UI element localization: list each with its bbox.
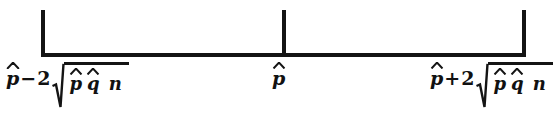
square-root-group: p q (52, 62, 128, 108)
p-glyph: p (69, 75, 82, 93)
plus-operator: + (444, 62, 460, 88)
coefficient-two: 2 (461, 62, 474, 88)
p-hat-symbol: p (493, 68, 506, 93)
fraction-numerator: p q (491, 67, 525, 94)
tick-lower-bound (41, 10, 45, 55)
upper-bound-label: p + 2 (430, 62, 553, 108)
q-hat-symbol: q (87, 68, 100, 93)
lower-bound-label: p − 2 (6, 62, 129, 108)
q-glyph: q (511, 75, 524, 93)
coefficient-two: 2 (37, 62, 50, 88)
p-glyph: p (6, 69, 19, 88)
hat-accent-icon (87, 68, 100, 75)
fraction-numerator: p q (67, 67, 101, 94)
fraction-denominator: n (531, 73, 548, 95)
tick-point-estimate (282, 10, 286, 55)
hat-accent-icon (493, 68, 506, 75)
p-hat-symbol: p (430, 62, 443, 88)
fraction-p-hat-q-hat-over-n: p q (67, 67, 123, 94)
point-estimate-label: p (272, 62, 285, 88)
q-hat-symbol: q (511, 68, 524, 93)
radical-sign-icon (52, 62, 65, 108)
p-glyph: p (493, 75, 506, 93)
hat-accent-icon (6, 62, 19, 69)
q-glyph: q (87, 75, 100, 93)
radical-sign-icon (476, 62, 489, 108)
square-root-group: p q (476, 62, 552, 108)
fraction-p-hat-q-hat-over-n: p q (491, 67, 547, 94)
tick-upper-bound (522, 10, 526, 55)
radicand: p q (488, 62, 552, 108)
fraction-denominator: n (107, 73, 124, 95)
p-hat-symbol: p (69, 68, 82, 93)
hat-accent-icon (272, 62, 285, 69)
hat-accent-icon (511, 68, 524, 75)
lower-bound-expression: p − 2 (6, 62, 129, 108)
p-glyph: p (272, 69, 285, 88)
minus-operator: − (20, 62, 36, 88)
hat-accent-icon (69, 68, 82, 75)
upper-bound-expression: p + 2 (430, 62, 553, 108)
p-hat-symbol: p (272, 62, 285, 88)
point-estimate-expression: p (272, 62, 285, 88)
p-hat-symbol: p (6, 62, 19, 88)
p-glyph: p (430, 69, 443, 88)
radicand: p q (64, 62, 128, 108)
hat-accent-icon (430, 62, 443, 69)
